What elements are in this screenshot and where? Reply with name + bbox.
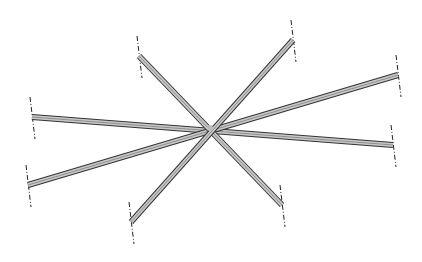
beam-group (28, 40, 398, 222)
beam-cross-diagram (0, 0, 422, 262)
center-hub (207, 125, 213, 131)
